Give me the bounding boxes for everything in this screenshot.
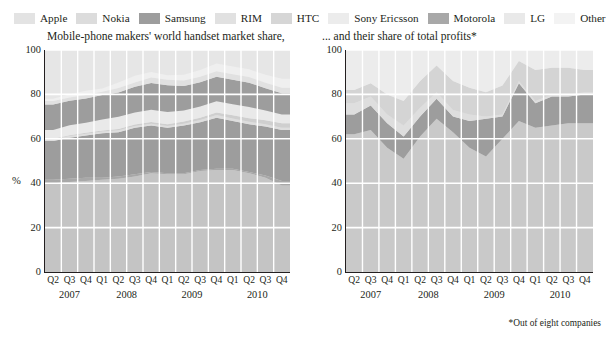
- x-tick-label: Q2: [544, 274, 560, 285]
- year-label: 2009: [461, 289, 527, 300]
- legend-swatch-icon: [328, 13, 349, 24]
- year-label: 2009: [159, 289, 224, 300]
- x-tick-label: Q2: [412, 274, 428, 285]
- legend-item-apple[interactable]: Apple: [14, 13, 67, 24]
- legend-item-label: Nokia: [102, 13, 129, 24]
- area-band-other: [45, 170, 290, 272]
- x-tick-label: Q1: [395, 274, 411, 285]
- year-label: 2007: [346, 289, 395, 300]
- legend-swatch-icon: [14, 13, 35, 24]
- left-ytick-100: 100: [15, 44, 41, 55]
- legend-item-rim[interactable]: RIM: [215, 13, 262, 24]
- year-label: 2010: [225, 289, 290, 300]
- chart-legend: AppleNokiaSamsungRIMHTCSony EricssonMoto…: [0, 8, 609, 28]
- legend-item-label: LG: [530, 13, 545, 24]
- left-x-axis-line: [44, 272, 290, 273]
- x-tick-label: Q1: [94, 274, 110, 285]
- left-ytick-20: 20: [15, 222, 41, 233]
- legend-swatch-icon: [139, 13, 160, 24]
- right-ytick-0: 0: [316, 266, 342, 277]
- right-ytick-60: 60: [316, 133, 342, 144]
- legend-item-label: Other: [580, 13, 605, 24]
- right-stacked-areas: [346, 50, 593, 272]
- x-tick-label: Q4: [379, 274, 395, 285]
- x-tick-label: Q4: [143, 274, 159, 285]
- market-share-plot: [45, 50, 290, 272]
- legend-swatch-icon: [271, 13, 292, 24]
- profit-share-title: ... and their share of total profits*: [322, 30, 477, 43]
- x-tick-label: Q3: [560, 274, 576, 285]
- left-ytick-60: 60: [15, 133, 41, 144]
- legend-item-sony-ericsson[interactable]: Sony Ericsson: [328, 13, 418, 24]
- year-label: 2010: [527, 289, 593, 300]
- profit-share-panel: ... and their share of total profits* 10…: [310, 30, 609, 330]
- left-x-tick-labels: Q2Q3Q4Q1Q2Q3Q4Q1Q2Q3Q4Q1Q2Q3Q4: [45, 274, 290, 285]
- legend-item-label: Samsung: [165, 13, 206, 24]
- x-tick-label: Q2: [241, 274, 257, 285]
- x-tick-label: Q1: [527, 274, 543, 285]
- legend-swatch-icon: [76, 13, 97, 24]
- right-x-tick-labels: Q2Q3Q4Q1Q2Q3Q4Q1Q2Q3Q4Q1Q2Q3Q4: [346, 274, 593, 285]
- legend-item-other[interactable]: Other: [554, 13, 605, 24]
- x-tick-label: Q4: [78, 274, 94, 285]
- legend-swatch-icon: [215, 13, 236, 24]
- right-year-labels: 2007200820092010: [346, 289, 593, 300]
- legend-item-htc[interactable]: HTC: [271, 13, 319, 24]
- market-share-panel: Mobile-phone makers' world handset marke…: [0, 30, 310, 330]
- x-tick-label: Q2: [478, 274, 494, 285]
- legend-item-motorola[interactable]: Motorola: [428, 13, 496, 24]
- x-tick-label: Q1: [159, 274, 175, 285]
- left-ytick-0: 0: [15, 266, 41, 277]
- x-tick-label: Q1: [225, 274, 241, 285]
- x-tick-label: Q3: [494, 274, 510, 285]
- chart-footnote: *Out of eight companies: [509, 318, 601, 328]
- x-tick-label: Q1: [461, 274, 477, 285]
- year-label: 2007: [45, 289, 94, 300]
- x-tick-label: Q2: [45, 274, 61, 285]
- legend-item-label: Sony Ericsson: [354, 13, 418, 24]
- right-ytick-40: 40: [316, 177, 342, 188]
- legend-item-label: HTC: [297, 13, 319, 24]
- year-label: 2008: [395, 289, 461, 300]
- left-year-labels: 2007200820092010: [45, 289, 290, 300]
- x-tick-label: Q3: [192, 274, 208, 285]
- right-ytick-80: 80: [316, 88, 342, 99]
- x-tick-label: Q3: [428, 274, 444, 285]
- x-tick-label: Q3: [362, 274, 378, 285]
- x-tick-label: Q4: [208, 274, 224, 285]
- right-x-axis-line: [345, 272, 593, 273]
- x-tick-label: Q3: [127, 274, 143, 285]
- left-stacked-areas: [45, 50, 290, 272]
- x-tick-label: Q4: [445, 274, 461, 285]
- right-ytick-100: 100: [316, 44, 342, 55]
- x-tick-label: Q3: [61, 274, 77, 285]
- legend-swatch-icon: [504, 13, 525, 24]
- x-tick-label: Q4: [511, 274, 527, 285]
- x-tick-label: Q3: [257, 274, 273, 285]
- legend-item-samsung[interactable]: Samsung: [139, 13, 206, 24]
- left-ytick-80: 80: [15, 88, 41, 99]
- legend-item-nokia[interactable]: Nokia: [76, 13, 129, 24]
- legend-swatch-icon: [554, 13, 575, 24]
- legend-item-lg[interactable]: LG: [504, 13, 545, 24]
- x-tick-label: Q2: [110, 274, 126, 285]
- year-label: 2008: [94, 289, 159, 300]
- legend-item-label: RIM: [241, 13, 262, 24]
- left-y-axis-label: %: [12, 175, 21, 186]
- x-tick-label: Q2: [346, 274, 362, 285]
- profit-share-plot: [346, 50, 593, 272]
- x-tick-label: Q4: [274, 274, 290, 285]
- x-tick-label: Q4: [577, 274, 593, 285]
- legend-item-label: Apple: [40, 13, 67, 24]
- legend-item-label: Motorola: [454, 13, 496, 24]
- market-share-title: Mobile-phone makers' world handset marke…: [47, 30, 285, 43]
- right-ytick-20: 20: [316, 222, 342, 233]
- legend-swatch-icon: [428, 13, 449, 24]
- x-tick-label: Q2: [176, 274, 192, 285]
